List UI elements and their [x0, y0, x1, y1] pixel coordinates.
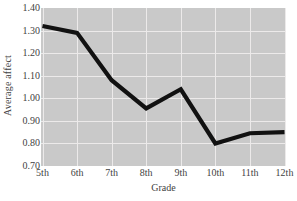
- line-chart: Average affect 1.401.301.201.101.000.900…: [0, 0, 296, 201]
- y-axis-tick-labels: 1.401.301.201.101.000.900.800.70: [13, 0, 40, 170]
- y-axis-tick-label: 1.40: [13, 3, 40, 13]
- data-series-line: [41, 8, 286, 166]
- y-axis-tick-label: 1.30: [13, 26, 40, 36]
- y-axis-title: Average affect: [0, 0, 14, 170]
- y-axis-tick-label: 1.20: [13, 48, 40, 58]
- y-axis-tick-label: 1.00: [13, 93, 40, 103]
- x-axis-title: Grade: [41, 182, 286, 194]
- y-axis-tick-label: 0.90: [13, 116, 40, 126]
- y-axis-tick-label: 0.80: [13, 138, 40, 148]
- x-axis-tick-labels: 5th6th7th8th9th10th11th12th: [0, 167, 296, 181]
- y-axis-title-text: Average affect: [2, 55, 13, 116]
- x-axis-tick-label: 12th: [265, 167, 297, 179]
- y-axis-tick-label: 1.10: [13, 71, 40, 81]
- plot-area: [41, 8, 286, 166]
